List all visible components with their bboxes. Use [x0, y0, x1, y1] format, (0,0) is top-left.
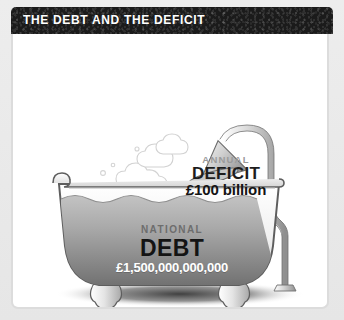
- tub-water: [61, 196, 279, 289]
- infographic-card: THE DEBT AND THE DEFICIT: [11, 7, 333, 313]
- content-panel: ANNUAL DEFICIT £100 billion NATIONAL DEB…: [11, 34, 329, 309]
- header-bar: THE DEBT AND THE DEFICIT: [11, 7, 333, 34]
- pipe-floor-base: [274, 285, 296, 291]
- tub-rim: [53, 173, 284, 187]
- illustration-stage: [17, 36, 329, 309]
- content-panel-inner: ANNUAL DEFICIT £100 billion NATIONAL DEB…: [17, 36, 323, 301]
- infographic-root: THE DEBT AND THE DEFICIT: [0, 0, 344, 320]
- page-title: THE DEBT AND THE DEFICIT: [23, 13, 205, 27]
